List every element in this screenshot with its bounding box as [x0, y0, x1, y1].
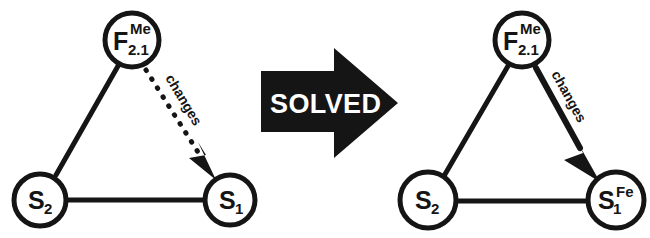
- node-f21me-left[interactable]: F 2.1 Me: [105, 13, 159, 67]
- node-label-main: S: [28, 186, 45, 214]
- node-s1-left[interactable]: S 1: [205, 175, 255, 225]
- node-s2-left[interactable]: S 2: [14, 174, 66, 226]
- node-f21me-right[interactable]: F 2.1 Me: [495, 13, 549, 67]
- node-label-sub: 2.1: [518, 41, 539, 58]
- transition-solved-arrow: SOLVED: [261, 48, 398, 158]
- node-label-sub: 2: [431, 200, 439, 217]
- edge-f-to-s2-left: [56, 66, 118, 175]
- edge-label-changes-left: changes: [162, 71, 205, 128]
- node-label-sup: Fe: [616, 183, 634, 200]
- node-s1fe-right[interactable]: S 1 Fe: [588, 172, 644, 228]
- node-label-main: F: [113, 27, 128, 55]
- node-label-sup: Me: [130, 20, 151, 37]
- node-label-sup: Me: [520, 20, 541, 37]
- arrowhead-left: [189, 142, 216, 180]
- node-label-sub: 1: [613, 200, 621, 217]
- node-label-main: S: [415, 186, 432, 214]
- arrowhead-right: [564, 134, 600, 182]
- node-label-main: F: [503, 27, 518, 55]
- node-s2-right[interactable]: S 2: [400, 172, 456, 228]
- solved-arrow-label: SOLVED: [270, 89, 381, 119]
- node-label-sub: 1: [235, 200, 243, 217]
- node-label-sub: 2: [44, 200, 52, 217]
- node-label-main: S: [219, 186, 236, 214]
- figure-canvas: F 2.1 Me S 2 S 1 changes SOLVED: [0, 0, 650, 238]
- panel-unsolved-graph: F 2.1 Me S 2 S 1 changes: [14, 13, 255, 226]
- panel-solved-graph: F 2.1 Me S 2 S 1 Fe changes: [400, 13, 644, 228]
- diagram-svg: F 2.1 Me S 2 S 1 changes SOLVED: [0, 0, 650, 238]
- node-label-sub: 2.1: [128, 41, 149, 58]
- edge-f-to-s2-right: [444, 66, 508, 176]
